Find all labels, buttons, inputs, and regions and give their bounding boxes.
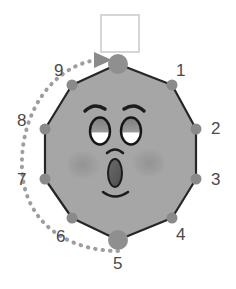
vertex-label-8: 8 <box>17 112 26 129</box>
node-4[interactable] <box>167 213 178 224</box>
left-eye <box>90 118 110 145</box>
left-cheek-blush <box>64 149 102 181</box>
node-5[interactable] <box>108 230 128 250</box>
vertex-label-4: 4 <box>176 226 185 243</box>
vertex-label-1: 1 <box>176 62 185 79</box>
node-6[interactable] <box>67 213 78 224</box>
node-8[interactable] <box>40 124 51 135</box>
vertex-label-5: 5 <box>113 255 122 272</box>
vertex-label-2: 2 <box>211 120 220 137</box>
figure-canvas <box>0 0 236 289</box>
node-2[interactable] <box>191 124 202 135</box>
node-7[interactable] <box>40 174 51 185</box>
right-cheek-blush <box>130 147 168 179</box>
node-top[interactable] <box>108 54 128 74</box>
white-square <box>101 15 139 52</box>
vertex-label-9: 9 <box>54 62 63 79</box>
vertex-label-7: 7 <box>17 171 26 188</box>
node-9[interactable] <box>67 80 78 91</box>
right-eye <box>121 118 141 145</box>
node-1[interactable] <box>167 80 178 91</box>
mouth <box>108 159 122 187</box>
node-3[interactable] <box>191 174 202 185</box>
decagon-face-figure: 1 2 3 4 5 6 7 8 9 <box>0 0 236 289</box>
vertex-label-3: 3 <box>211 171 220 188</box>
vertex-label-6: 6 <box>56 228 65 245</box>
